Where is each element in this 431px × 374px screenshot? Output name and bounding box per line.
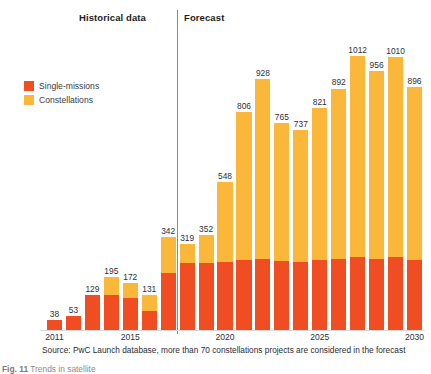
bar-value-label-2018: 319 xyxy=(174,233,200,243)
bar-2016 xyxy=(142,295,157,330)
source-note: Source: PwC Launch database, more than 7… xyxy=(42,345,405,355)
bar-segment-single-missions-2022 xyxy=(255,259,270,330)
figure-caption-text: Trends in satellite xyxy=(30,364,95,374)
bar-value-label-2027: 1012 xyxy=(345,45,371,55)
x-tick-2011: 2011 xyxy=(37,332,71,342)
bar-segment-constellations-2023 xyxy=(274,123,289,261)
x-tick-2030: 2030 xyxy=(398,332,431,342)
bar-segment-constellations-2027 xyxy=(350,56,365,257)
bar-value-label-2021: 806 xyxy=(231,101,257,111)
bar-segment-constellations-2029 xyxy=(388,57,403,258)
bar-segment-constellations-2030 xyxy=(407,87,422,260)
bar-segment-single-missions-2018 xyxy=(180,263,195,330)
bar-segment-constellations-2020 xyxy=(217,182,232,263)
bar-value-label-2026: 892 xyxy=(326,77,352,87)
bar-segment-constellations-2019 xyxy=(199,235,214,263)
bar-value-label-2024: 737 xyxy=(288,119,314,129)
bar-value-label-2019: 352 xyxy=(193,224,219,234)
bar-segment-single-missions-2030 xyxy=(407,260,422,330)
bar-2030 xyxy=(407,87,422,330)
bar-segment-constellations-2018 xyxy=(180,244,195,264)
bar-2024 xyxy=(293,130,308,330)
x-axis-line xyxy=(40,330,425,331)
x-tick-2020: 2020 xyxy=(208,332,242,342)
bar-segment-constellations-2028 xyxy=(369,71,384,259)
bar-segment-single-missions-2017 xyxy=(161,273,176,330)
bar-2011 xyxy=(47,320,62,330)
bar-segment-single-missions-2019 xyxy=(199,263,214,330)
figure-caption-label: Fig. 11 xyxy=(2,364,28,374)
bar-segment-single-missions-2012 xyxy=(66,316,81,330)
bar-2021 xyxy=(236,112,251,330)
bar-segment-constellations-2016 xyxy=(142,295,157,311)
bar-2019 xyxy=(199,235,214,330)
bar-2012 xyxy=(66,316,81,330)
bar-segment-single-missions-2023 xyxy=(274,261,289,330)
bar-value-label-2015: 172 xyxy=(117,272,143,282)
bar-2023 xyxy=(274,123,289,330)
bar-value-label-2030: 896 xyxy=(402,76,428,86)
bar-2013 xyxy=(85,295,100,330)
bar-segment-constellations-2025 xyxy=(312,108,327,260)
bar-segment-single-missions-2028 xyxy=(369,259,384,330)
x-tick-2015: 2015 xyxy=(113,332,147,342)
bar-2025 xyxy=(312,108,327,330)
bar-segment-single-missions-2021 xyxy=(236,260,251,330)
bar-segment-constellations-2024 xyxy=(293,130,308,262)
bar-value-label-2020: 548 xyxy=(212,171,238,181)
bar-segment-single-missions-2014 xyxy=(104,295,119,330)
bar-segment-constellations-2022 xyxy=(255,79,270,259)
bar-2029 xyxy=(388,57,403,330)
bar-2020 xyxy=(217,182,232,330)
bar-segment-single-missions-2015 xyxy=(123,298,138,330)
bar-2014 xyxy=(104,277,119,330)
bar-value-label-2016: 131 xyxy=(136,284,162,294)
figure-caption: Fig. 11 Trends in satellite xyxy=(2,364,96,374)
bar-value-label-2022: 928 xyxy=(250,68,276,78)
bar-2026 xyxy=(331,89,346,331)
bar-segment-single-missions-2011 xyxy=(47,320,62,330)
bar-segment-constellations-2026 xyxy=(331,89,346,260)
bar-2017 xyxy=(161,237,176,330)
bar-segment-single-missions-2025 xyxy=(312,260,327,330)
x-tick-2025: 2025 xyxy=(303,332,337,342)
bar-segment-single-missions-2029 xyxy=(388,257,403,330)
bar-value-label-2012: 53 xyxy=(60,305,86,315)
bar-segment-single-missions-2020 xyxy=(217,262,232,330)
bar-segment-constellations-2021 xyxy=(236,112,251,260)
bar-2027 xyxy=(350,56,365,330)
bar-segment-single-missions-2013 xyxy=(85,295,100,330)
bar-segment-single-missions-2026 xyxy=(331,259,346,330)
bar-segment-single-missions-2027 xyxy=(350,257,365,330)
bar-segment-single-missions-2024 xyxy=(293,262,308,330)
bar-value-label-2025: 821 xyxy=(307,97,333,107)
bar-segment-constellations-2017 xyxy=(161,237,176,272)
bar-value-label-2013: 129 xyxy=(79,284,105,294)
bar-segment-single-missions-2016 xyxy=(142,311,157,330)
bar-value-label-2028: 956 xyxy=(364,60,390,70)
bar-value-label-2029: 1010 xyxy=(383,46,409,56)
bar-2028 xyxy=(369,71,384,330)
bar-2018 xyxy=(180,244,195,330)
